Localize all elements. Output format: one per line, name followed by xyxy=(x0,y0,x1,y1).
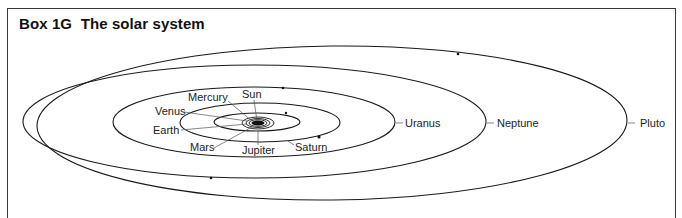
label-sun: Sun xyxy=(242,88,262,100)
leader-earth xyxy=(181,124,247,130)
label-venus: Venus xyxy=(155,105,186,117)
orbit-pluto xyxy=(36,43,628,203)
pluto-position-dot xyxy=(457,53,460,56)
neptune-position-dot xyxy=(210,177,213,180)
label-jupiter: Jupiter xyxy=(242,144,275,156)
label-neptune: Neptune xyxy=(497,117,539,129)
sun-and-mercury-orbit xyxy=(252,120,265,125)
label-mars: Mars xyxy=(190,141,215,153)
label-uranus: Uranus xyxy=(405,117,441,129)
saturn-position-dot xyxy=(317,135,320,138)
label-pluto: Pluto xyxy=(640,117,665,129)
leader-saturn xyxy=(288,141,294,145)
uranus-position-dot xyxy=(282,87,285,90)
solar-system-diagram: Mercury Sun Venus Earth Mars Jupiter Sat… xyxy=(0,0,682,218)
label-mercury: Mercury xyxy=(188,91,228,103)
jupiter-position-dot xyxy=(285,112,287,114)
label-saturn: Saturn xyxy=(295,141,327,153)
label-earth: Earth xyxy=(153,124,179,136)
